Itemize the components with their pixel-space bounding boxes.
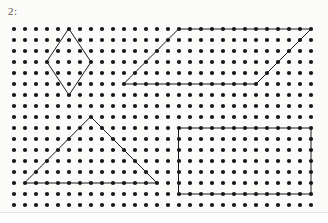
- grid-dot: [221, 181, 225, 185]
- grid-dot: [45, 27, 49, 31]
- grid-dot: [144, 137, 148, 141]
- grid-dot: [199, 38, 203, 42]
- grid-dot: [221, 115, 225, 119]
- grid-dot: [287, 104, 291, 108]
- grid-dot: [243, 115, 247, 119]
- grid-dot: [78, 82, 82, 86]
- grid-dot: [34, 137, 38, 141]
- worksheet-page: 2: dot-grid geoboard worksheet: [0, 0, 328, 223]
- grid-dot: [188, 203, 192, 207]
- grid-dot: [254, 93, 258, 97]
- grid-dot: [188, 148, 192, 152]
- grid-dot: [133, 115, 137, 119]
- grid-dot: [12, 170, 16, 174]
- grid-dot: [45, 49, 49, 53]
- grid-dot: [111, 82, 115, 86]
- grid-dot: [144, 49, 148, 53]
- grid-dot: [34, 93, 38, 97]
- grid-dot: [56, 104, 60, 108]
- grid-dot: [78, 192, 82, 196]
- grid-dot: [210, 181, 214, 185]
- grid-dot: [111, 115, 115, 119]
- grid-dot: [210, 159, 214, 163]
- grid-dot: [177, 93, 181, 97]
- grid-dot: [23, 148, 27, 152]
- grid-dot: [45, 192, 49, 196]
- grid-dot: [188, 49, 192, 53]
- grid-dot: [45, 82, 49, 86]
- grid-dot: [23, 203, 27, 207]
- grid-dot: [23, 159, 27, 163]
- grid-dot: [166, 71, 170, 75]
- grid-dot: [287, 170, 291, 174]
- grid-dot: [133, 126, 137, 130]
- grid-dot: [67, 104, 71, 108]
- grid-dot: [23, 104, 27, 108]
- grid-dot: [67, 38, 71, 42]
- grid-dot: [298, 60, 302, 64]
- grid-dot: [221, 60, 225, 64]
- grid-dot: [122, 115, 126, 119]
- grid-dot: [265, 104, 269, 108]
- grid-dot: [67, 71, 71, 75]
- grid-dot: [45, 148, 49, 152]
- grid-dot: [78, 38, 82, 42]
- grid-dot: [34, 148, 38, 152]
- grid-dot: [45, 203, 49, 207]
- grid-dot: [45, 38, 49, 42]
- grid-dot: [111, 148, 115, 152]
- grid-dot: [122, 93, 126, 97]
- shape-figures: [25, 29, 311, 194]
- grid-dot: [265, 170, 269, 174]
- grid-dot: [78, 27, 82, 31]
- grid-dot: [34, 203, 38, 207]
- grid-dot: [155, 38, 159, 42]
- grid-dot: [100, 49, 104, 53]
- grid-dot: [12, 71, 16, 75]
- grid-dot: [243, 170, 247, 174]
- grid-dot: [298, 170, 302, 174]
- grid-dot: [155, 137, 159, 141]
- grid-dot: [177, 49, 181, 53]
- grid-dot: [111, 192, 115, 196]
- grid-dot: [243, 137, 247, 141]
- grid-dot: [111, 203, 115, 207]
- grid-dot: [111, 93, 115, 97]
- page-bottom-edge: [0, 212, 328, 223]
- grid-dot: [298, 181, 302, 185]
- grid-dot: [188, 38, 192, 42]
- grid-dot: [188, 181, 192, 185]
- grid-dot: [45, 93, 49, 97]
- grid-dot: [221, 38, 225, 42]
- grid-dot: [23, 71, 27, 75]
- grid-dot: [210, 170, 214, 174]
- grid-dot: [155, 126, 159, 130]
- grid-dot: [276, 148, 280, 152]
- grid-dot: [276, 203, 280, 207]
- grid-dot: [232, 93, 236, 97]
- grid-dot: [232, 104, 236, 108]
- grid-dot: [177, 38, 181, 42]
- grid-dot: [144, 38, 148, 42]
- shape-parallelogram: [124, 29, 311, 84]
- grid-dot: [298, 104, 302, 108]
- grid-dot: [100, 192, 104, 196]
- grid-dot: [122, 159, 126, 163]
- grid-dot: [199, 93, 203, 97]
- grid-dot: [56, 49, 60, 53]
- grid-dot: [144, 203, 148, 207]
- grid-dot: [78, 104, 82, 108]
- grid-dot: [111, 71, 115, 75]
- grid-dot: [89, 126, 93, 130]
- grid-dot: [12, 27, 16, 31]
- grid-dot: [89, 27, 93, 31]
- grid-dot: [89, 192, 93, 196]
- grid-dot: [111, 159, 115, 163]
- grid-dot: [188, 60, 192, 64]
- grid-dot: [265, 137, 269, 141]
- grid-dot: [254, 104, 258, 108]
- grid-dot: [155, 104, 159, 108]
- grid-dot: [254, 148, 258, 152]
- grid-dot: [12, 148, 16, 152]
- grid-dot: [133, 60, 137, 64]
